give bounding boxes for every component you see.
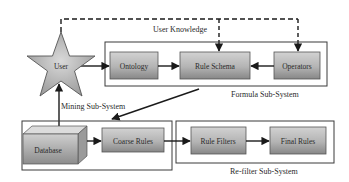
formula-subsystem-label: Formula Sub-System xyxy=(231,90,300,99)
final-rules-node: Final Rules xyxy=(270,127,326,154)
rule-schema-node: Rule Schema xyxy=(180,52,250,79)
database-node: Database xyxy=(23,126,87,164)
final-rules-label: Final Rules xyxy=(281,137,315,146)
database-label: Database xyxy=(34,146,62,155)
rule-filters-node: Rule Filters xyxy=(191,127,246,154)
user-actor: User xyxy=(27,32,95,96)
architecture-diagram: User Knowledge Formula Sub-System Ontolo… xyxy=(0,0,349,182)
ontology-node: Ontology xyxy=(110,52,158,79)
ontology-label: Ontology xyxy=(120,62,149,71)
rule-schema-label: Rule Schema xyxy=(195,62,235,71)
user-knowledge-label: User Knowledge xyxy=(153,25,207,34)
mining-subsystem-label: Mining Sub-System xyxy=(61,102,126,111)
rule-filters-label: Rule Filters xyxy=(200,137,235,146)
refilter-subsystem-label: Re-filter Sub-System xyxy=(230,167,299,176)
user-knowledge-link: User Knowledge xyxy=(61,19,298,51)
operators-node: Operators xyxy=(274,52,320,79)
coarse-rules-label: Coarse Rules xyxy=(113,137,153,146)
user-label: User xyxy=(54,62,69,71)
operators-label: Operators xyxy=(282,62,312,71)
coarse-rules-node: Coarse Rules xyxy=(102,128,164,152)
